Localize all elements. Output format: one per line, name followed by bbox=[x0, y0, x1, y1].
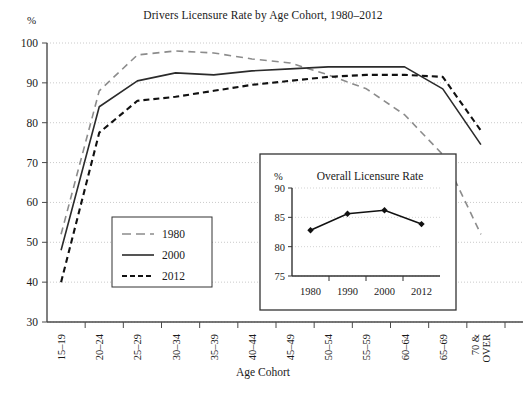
plot-area: 30405060708090100 15–1920–2425–2930–3435… bbox=[0, 0, 526, 395]
y-tick-label: 30 bbox=[27, 316, 39, 328]
x-tick-label: 20–24 bbox=[94, 333, 105, 360]
y-tick-label: 100 bbox=[21, 37, 39, 49]
inset-y-unit-label: % bbox=[274, 171, 283, 182]
inset-y-tick-label: 75 bbox=[275, 271, 286, 282]
chart-title: Drivers Licensure Rate by Age Cohort, 19… bbox=[0, 9, 526, 21]
y-tick-label: 90 bbox=[27, 77, 39, 89]
inset-x-tick-label: 1990 bbox=[337, 286, 358, 297]
inset-y-tick-label: 85 bbox=[275, 212, 286, 223]
x-axis-title: Age Cohort bbox=[0, 366, 526, 378]
y-tick-label: 40 bbox=[27, 276, 39, 288]
x-tick-label: 30–34 bbox=[171, 333, 182, 360]
x-tick-label: 70 & bbox=[470, 334, 481, 355]
legend-box: 198020002012 bbox=[112, 217, 212, 287]
legend-label-2000: 2000 bbox=[162, 249, 185, 261]
x-tick-label: OVER bbox=[481, 334, 492, 363]
y-tick-label: 80 bbox=[27, 117, 39, 129]
inset-chart: %Overall Licensure Rate75808590198019902… bbox=[260, 154, 456, 310]
legend-label-1980: 1980 bbox=[162, 228, 185, 240]
x-tick-label: 15–19 bbox=[56, 334, 67, 360]
y-tick-label: 50 bbox=[27, 236, 39, 248]
x-tick-label: 60–64 bbox=[400, 333, 411, 360]
legend-label-2012: 2012 bbox=[162, 270, 185, 282]
x-tick-label: 50–54 bbox=[323, 333, 334, 360]
inset-x-tick-label: 2012 bbox=[411, 286, 432, 297]
y-tick-label: 60 bbox=[27, 196, 39, 208]
inset-x-tick-label: 1980 bbox=[300, 286, 321, 297]
inset-y-tick-label: 80 bbox=[275, 242, 286, 253]
inset-x-tick-label: 2000 bbox=[374, 286, 395, 297]
y-axis-unit-label: % bbox=[27, 14, 36, 26]
x-tick-label: 45–49 bbox=[285, 334, 296, 360]
inset-y-tick-label: 90 bbox=[275, 183, 286, 194]
inset-title: Overall Licensure Rate bbox=[317, 170, 424, 182]
x-tick-label: 35–39 bbox=[209, 334, 220, 360]
x-tick-label: 25–29 bbox=[132, 334, 143, 360]
chart-figure: Drivers Licensure Rate by Age Cohort, 19… bbox=[0, 0, 526, 395]
x-tick-label: 40–44 bbox=[247, 333, 258, 360]
y-tick-label: 70 bbox=[27, 157, 39, 169]
x-tick-label: 55–59 bbox=[361, 334, 372, 360]
x-tick-group: 15–1920–2425–2930–3435–3940–4445–4950–54… bbox=[56, 322, 505, 363]
x-tick-label: 65–69 bbox=[438, 334, 449, 360]
